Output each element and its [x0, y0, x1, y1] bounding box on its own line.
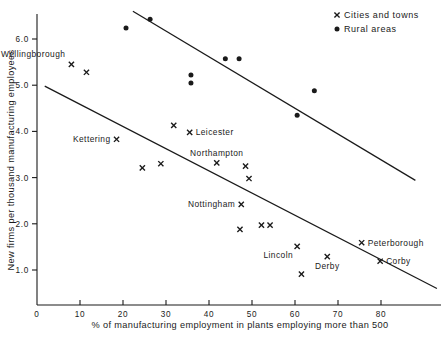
y-tick-label-2.0: 2.0	[16, 220, 29, 229]
datapoint-cross-11	[237, 227, 242, 232]
y-tick-label-3.0: 3.0	[16, 174, 29, 183]
datapoint-cross-7	[214, 160, 219, 165]
datapoint-cross-15	[325, 254, 330, 259]
datapoint-cross-13	[267, 223, 272, 228]
point-label-lincoln: Lincoln	[263, 250, 293, 260]
point-label-wellingborough: Wellingborough	[1, 49, 65, 59]
trend-line-urban-trend	[45, 86, 437, 288]
datapoint-cross-8	[243, 163, 248, 168]
scatter-plot-figure: 1.02.03.04.05.06.001020304050607080% of …	[0, 0, 446, 340]
datapoint-cross-4	[158, 161, 163, 166]
datapoint-dot-2	[188, 73, 193, 78]
datapoint-cross-18	[299, 272, 304, 277]
datapoint-dot-6	[312, 88, 317, 93]
point-label-derby: Derby	[315, 261, 340, 271]
point-label-peterborough: Peterborough	[368, 238, 424, 248]
point-label-northampton: Northampton	[190, 148, 243, 158]
datapoint-cross-9	[246, 176, 251, 181]
datapoint-dot-3	[188, 80, 193, 85]
legend-marker-cross	[334, 12, 339, 17]
datapoint-cross-1	[84, 70, 89, 75]
y-tick-label-5.0: 5.0	[16, 81, 29, 90]
x-axis-title: % of manufacturing employment in plants …	[92, 320, 389, 330]
datapoint-cross-16	[359, 240, 364, 245]
datapoint-dot-0	[124, 25, 129, 30]
datapoint-cross-3	[140, 165, 145, 170]
x-tick-label-40: 40	[204, 310, 215, 319]
datapoint-dot-5	[237, 56, 242, 61]
datapoint-dot-7	[295, 113, 300, 118]
x-tick-label-0: 0	[34, 310, 39, 319]
datapoint-dot-1	[148, 17, 153, 22]
legend-label-dot: Rural areas	[344, 24, 397, 34]
trend-line-rural-trend	[133, 11, 416, 180]
point-label-leicester: Leicester	[196, 127, 234, 137]
datapoint-cross-10	[239, 202, 244, 207]
legend-label-cross: Cities and towns	[344, 10, 419, 20]
point-label-corby: Corby	[386, 256, 411, 266]
point-label-nottingham: Nottingham	[188, 199, 235, 209]
x-tick-label-30: 30	[161, 310, 172, 319]
datapoint-cross-5	[171, 123, 176, 128]
datapoint-cross-0	[69, 62, 74, 67]
legend-marker-dot	[335, 27, 340, 32]
point-label-kettering: Kettering	[73, 134, 111, 144]
chart-canvas: 1.02.03.04.05.06.001020304050607080% of …	[0, 0, 446, 340]
x-tick-label-20: 20	[118, 310, 129, 319]
x-tick-label-50: 50	[247, 310, 258, 319]
x-tick-label-80: 80	[376, 310, 387, 319]
y-tick-label-4.0: 4.0	[16, 127, 29, 136]
datapoint-cross-6	[187, 130, 192, 135]
datapoint-cross-2	[114, 137, 119, 142]
datapoint-cross-14	[295, 244, 300, 249]
y-tick-label-6.0: 6.0	[16, 35, 29, 44]
datapoint-cross-12	[259, 223, 264, 228]
x-tick-label-10: 10	[75, 310, 86, 319]
x-tick-label-70: 70	[333, 310, 344, 319]
y-axis-title: New firms per thousand manufacturing emp…	[6, 50, 16, 271]
datapoint-dot-4	[223, 56, 228, 61]
x-tick-label-60: 60	[290, 310, 301, 319]
y-tick-label-1.0: 1.0	[16, 266, 29, 275]
